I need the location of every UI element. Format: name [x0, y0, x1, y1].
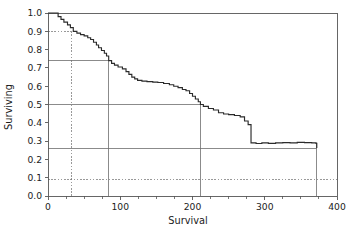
x-tick-label: 100	[111, 201, 129, 212]
y-tick-label: 0.5	[27, 99, 42, 110]
x-axis-title: Survival	[168, 215, 208, 226]
x-tick-label: 400	[328, 201, 346, 212]
chart-canvas: 0.00.10.20.30.40.50.60.70.80.91.00100200…	[0, 0, 356, 233]
axis-ticks	[45, 13, 338, 200]
y-tick-label: 1.0	[27, 7, 42, 18]
y-tick-label: 0.8	[27, 44, 42, 55]
y-tick-label: 0.1	[27, 172, 42, 183]
y-tick-label: 0.0	[27, 190, 42, 201]
y-tick-label: 0.4	[27, 117, 42, 128]
x-tick-label: 0	[45, 201, 51, 212]
survival-chart: 0.00.10.20.30.40.50.60.70.80.91.00100200…	[0, 0, 356, 233]
reference-lines-layer	[48, 31, 337, 196]
y-tick-label: 0.9	[27, 26, 42, 37]
survival-step-curve	[48, 13, 317, 148]
x-tick-label: 300	[256, 201, 274, 212]
y-tick-label: 0.3	[27, 135, 42, 146]
y-tick-label: 0.7	[27, 62, 42, 73]
x-tick-label: 200	[184, 201, 202, 212]
survival-curve-layer	[48, 13, 317, 148]
y-tick-label: 0.6	[27, 81, 42, 92]
y-tick-label: 0.2	[27, 154, 42, 165]
y-axis-title: Surviving	[3, 84, 14, 130]
axis-tick-labels: 0.00.10.20.30.40.50.60.70.80.91.00100200…	[27, 7, 346, 212]
